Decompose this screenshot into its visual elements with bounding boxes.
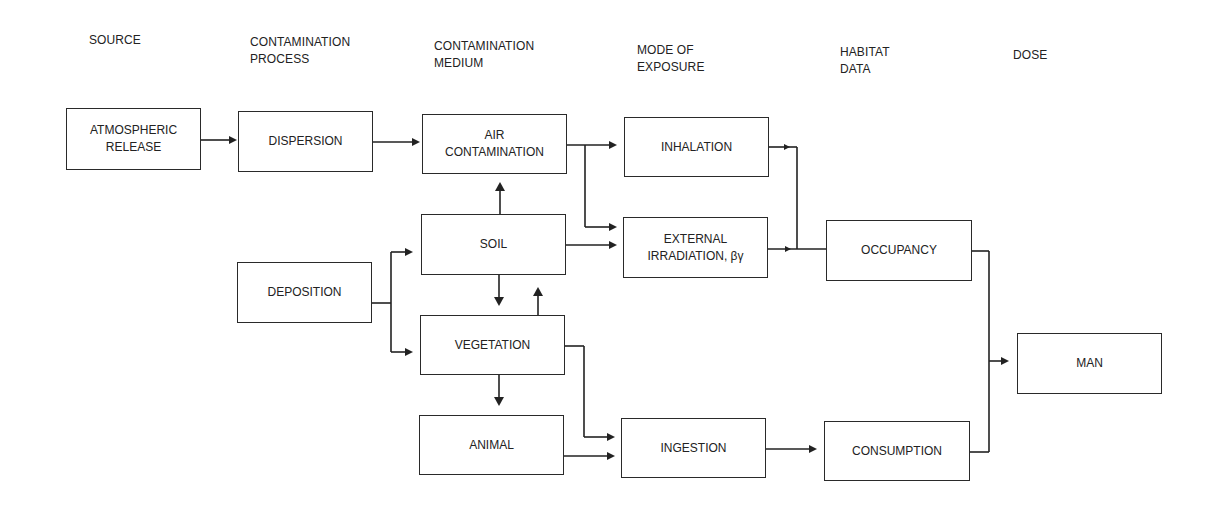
node-atmospheric-release[interactable]: ATMOSPHERIC RELEASE (66, 108, 201, 170)
edge-vegetation-to-ingestion (565, 346, 615, 441)
edge-soil-to-external (566, 241, 617, 249)
node-consumption[interactable]: CONSUMPTION (824, 421, 970, 481)
node-external-irradiation[interactable]: EXTERNAL IRRADIATION, βγ (623, 217, 768, 278)
edge-ingestion-to-consumption (766, 445, 817, 453)
edge-air-to-inhalation-external (567, 141, 617, 231)
connector-layer (0, 0, 1229, 522)
node-dispersion[interactable]: DISPERSION (238, 111, 373, 172)
node-vegetation[interactable]: VEGETATION (420, 315, 565, 375)
edge-animal-to-ingestion (564, 452, 615, 460)
edge-soil-to-air (495, 182, 505, 214)
edge-soil-to-vegetation (494, 275, 504, 306)
edge-deposition-to-soil-vegetation (372, 248, 413, 356)
node-inhalation[interactable]: INHALATION (624, 117, 769, 177)
node-animal[interactable]: ANIMAL (419, 415, 564, 475)
node-soil[interactable]: SOIL (421, 214, 566, 275)
node-ingestion[interactable]: INGESTION (621, 418, 766, 478)
edge-atmospheric-to-dispersion (201, 136, 237, 144)
edge-dispersion-to-air (373, 138, 420, 146)
node-man[interactable]: MAN (1017, 333, 1162, 394)
node-deposition[interactable]: DEPOSITION (237, 262, 372, 323)
edge-vegetation-to-soil (533, 287, 543, 315)
edge-habitat-to-man (970, 251, 1009, 452)
edge-exposure-to-occupancy (768, 144, 826, 252)
node-air-contamination[interactable]: AIR CONTAMINATION (422, 114, 567, 174)
edge-vegetation-to-animal (494, 375, 504, 406)
node-occupancy[interactable]: OCCUPANCY (826, 220, 972, 281)
